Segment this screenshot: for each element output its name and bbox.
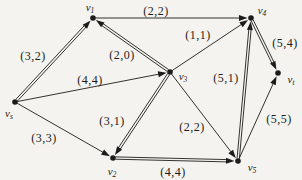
edge-v3-v4-arrowhead-icon (239, 20, 248, 27)
node-label-v3: v3 (179, 70, 188, 85)
node-label-v1: v1 (86, 1, 95, 16)
edge-vs-v1-label: (3,2) (20, 49, 46, 63)
edge-vs-v2-label: (3,3) (31, 131, 57, 145)
node-label-vt: vt (288, 73, 296, 88)
edge-v3-v1-label: (2,0) (109, 48, 135, 62)
edge-v5-v4-line2 (237, 27, 249, 159)
node-vs (12, 99, 18, 105)
edge-v5-vt-label: (5,5) (266, 112, 292, 126)
flow-network-canvas: (3,2)(2,2)(2,0)(1,1)(5,4)(4,4)(5,1)(3,1)… (0, 0, 302, 179)
edge-v3-v5-label: (2,2) (179, 120, 205, 134)
node-label-vs: vs (5, 107, 13, 122)
edge-v3-v2-line1 (117, 73, 168, 149)
edge-v3-v4-label: (1,1) (185, 28, 211, 42)
edge-vs-v1-arrowhead-icon (83, 21, 91, 29)
node-label-v4: v4 (258, 4, 267, 19)
edge-vs-v2-arrowhead-icon (101, 149, 110, 156)
edge-v4-vt-line1 (251, 21, 273, 66)
edge-v5-vt-arrowhead-icon (270, 76, 276, 85)
node-v3 (167, 69, 173, 75)
edge-v3-v1-line1 (101, 22, 169, 69)
node-v2 (110, 155, 116, 161)
edge-v1-v4-arrowhead-icon (239, 15, 248, 21)
edge-v5-v4-line1 (239, 27, 251, 159)
edge-v2-v5-label: (4,4) (160, 165, 186, 179)
edge-v3-v2-line2 (119, 75, 170, 151)
node-v5 (235, 158, 241, 164)
edge-v5-v4-label: (5,1) (213, 71, 239, 85)
node-label-v5: v5 (248, 161, 257, 176)
edge-v3-v5-line (172, 74, 233, 154)
edge-v2-v5-arrowhead-icon (226, 158, 235, 164)
edge-v3-v2-label: (3,1) (99, 114, 125, 128)
edge-v4-vt-label: (5,4) (272, 36, 298, 50)
edge-v1-v4-label: (2,2) (143, 4, 169, 18)
edge-vs-v3-label: (4,4) (77, 73, 103, 87)
node-v4 (248, 15, 254, 21)
flow-network-diagram: (3,2)(2,2)(2,0)(1,1)(5,4)(4,4)(5,1)(3,1)… (0, 0, 302, 179)
edge-v3-v5-arrowhead-icon (228, 150, 236, 159)
node-v1 (90, 15, 96, 21)
node-vt (275, 70, 281, 76)
node-label-v2: v2 (108, 165, 117, 180)
edge-vs-v2-line (17, 103, 105, 153)
